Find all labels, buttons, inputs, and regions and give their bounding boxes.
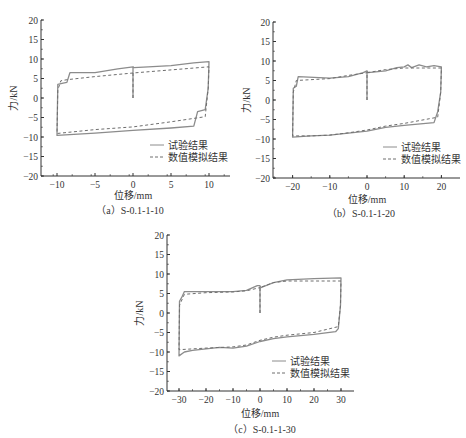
y-tick-label: 15 bbox=[261, 37, 271, 47]
y-tick-label: −5 bbox=[154, 328, 164, 338]
caption-a: （a）S-0.1-1-10 bbox=[96, 205, 164, 216]
legend-b: 试验结果 数值模拟结果 bbox=[383, 141, 461, 165]
x-tick-label: −10 bbox=[322, 182, 337, 192]
x-tick-label: −10 bbox=[226, 395, 241, 405]
y-tick-label: −15 bbox=[23, 152, 38, 162]
y-tick-label: 15 bbox=[155, 250, 165, 260]
y-tick-label: −20 bbox=[255, 174, 270, 184]
x-tick-label: 5 bbox=[169, 180, 174, 190]
hysteresis-figure: −20−15−10−505101520−10−50510 位移/mm 力/kN … bbox=[0, 0, 466, 438]
legend-dashed-label-c: 数值模拟结果 bbox=[290, 367, 350, 379]
y-tick-label: 0 bbox=[33, 94, 38, 104]
x-tick-label: −30 bbox=[172, 395, 187, 405]
y-tick-label: 5 bbox=[265, 76, 270, 86]
x-tick-label: 10 bbox=[282, 395, 292, 405]
y-tick-label: 20 bbox=[261, 18, 271, 28]
legend-solid-label-a: 试验结果 bbox=[168, 139, 208, 151]
y-tick-label: −20 bbox=[23, 172, 38, 182]
y-tick-label: 15 bbox=[29, 35, 39, 45]
x-tick-label: 30 bbox=[336, 395, 346, 405]
y-tick-label: −5 bbox=[260, 115, 270, 125]
y-tick-label: −15 bbox=[255, 154, 270, 164]
x-axis-label-b: 位移/mm bbox=[348, 193, 387, 205]
y-tick-label: −20 bbox=[149, 387, 164, 397]
legend-c: 试验结果 数值模拟结果 bbox=[272, 355, 350, 379]
plot-area-b: −20−15−10−505101520−20−1001020 bbox=[255, 18, 460, 193]
x-axis-label-c: 位移/mm bbox=[241, 407, 280, 419]
legend-a: 试验结果 数值模拟结果 bbox=[150, 139, 228, 163]
x-tick-label: 0 bbox=[365, 182, 370, 192]
y-tick-label: 0 bbox=[159, 309, 164, 319]
y-tick-label: −10 bbox=[149, 348, 164, 358]
chart-panel-b: −20−15−10−505101520−20−1001020 位移/mm 力/k… bbox=[240, 18, 461, 220]
x-tick-label: 0 bbox=[131, 180, 136, 190]
legend-solid-label-c: 试验结果 bbox=[290, 355, 330, 367]
x-tick-label: 20 bbox=[437, 182, 447, 192]
legend-dashed-label-a: 数值模拟结果 bbox=[168, 151, 228, 163]
y-axis-label-a: 力/kN bbox=[7, 86, 19, 111]
x-tick-label: −20 bbox=[199, 395, 214, 405]
experimental-curve bbox=[57, 62, 209, 136]
y-axis-label-c: 力/kN bbox=[133, 301, 145, 326]
y-tick-label: 20 bbox=[155, 231, 165, 241]
x-tick-label: 0 bbox=[258, 395, 263, 405]
x-tick-label: −20 bbox=[285, 182, 300, 192]
y-tick-label: −5 bbox=[28, 113, 38, 123]
y-tick-label: 0 bbox=[265, 96, 270, 106]
y-tick-label: 10 bbox=[261, 57, 271, 67]
caption-c: （c）S-0.1-1-30 bbox=[228, 424, 296, 435]
chart-panel-c: −20−15−10−505101520−30−20−100102030 位移/m… bbox=[133, 231, 354, 436]
y-tick-label: −15 bbox=[149, 367, 164, 377]
legend-dashed-label-b: 数值模拟结果 bbox=[401, 153, 461, 165]
y-tick-label: 5 bbox=[33, 74, 38, 84]
x-tick-label: −10 bbox=[50, 180, 65, 190]
x-axis-label-a: 位移/mm bbox=[114, 189, 153, 201]
y-tick-label: 5 bbox=[159, 289, 164, 299]
x-tick-label: 20 bbox=[309, 395, 319, 405]
x-tick-label: 10 bbox=[399, 182, 409, 192]
y-tick-label: 10 bbox=[29, 55, 39, 65]
y-tick-label: −10 bbox=[255, 135, 270, 145]
legend-solid-label-b: 试验结果 bbox=[401, 141, 441, 153]
y-axis-label-b: 力/kN bbox=[240, 88, 252, 113]
caption-b: （b）S-0.1-1-20 bbox=[327, 208, 395, 219]
chart-panel-a: −20−15−10−505101520−10−50510 位移/mm 力/kN … bbox=[7, 16, 230, 217]
y-tick-label: −10 bbox=[23, 133, 38, 143]
y-tick-label: 10 bbox=[155, 270, 165, 280]
x-tick-label: −5 bbox=[90, 180, 100, 190]
plot-area-a: −20−15−10−505101520−10−50510 bbox=[23, 16, 230, 191]
x-tick-label: 10 bbox=[204, 180, 214, 190]
y-tick-label: 20 bbox=[29, 16, 39, 26]
